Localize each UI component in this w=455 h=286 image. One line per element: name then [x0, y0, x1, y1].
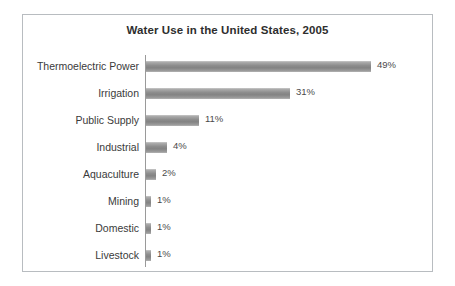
bar[interactable]: [146, 223, 151, 234]
bar[interactable]: [146, 169, 156, 180]
bar-row: Thermoelectric Power 49%: [23, 53, 434, 80]
bar-row: Industrial 4%: [23, 134, 434, 161]
bar-value-label: 1%: [157, 194, 171, 205]
category-label: Aquaculture: [23, 161, 139, 188]
category-label: Mining: [23, 188, 139, 215]
plot-area: Thermoelectric Power 49% Irrigation 31% …: [23, 53, 434, 273]
bar-value-label: 4%: [173, 140, 187, 151]
bar-value-label: 2%: [162, 167, 176, 178]
bar[interactable]: [146, 142, 167, 153]
bar[interactable]: [146, 196, 151, 207]
category-label: Thermoelectric Power: [23, 53, 139, 80]
bar[interactable]: [146, 115, 199, 126]
category-label: Industrial: [23, 134, 139, 161]
category-label: Livestock: [23, 242, 139, 269]
category-label: Public Supply: [23, 107, 139, 134]
bar-value-label: 31%: [296, 86, 315, 97]
bar[interactable]: [146, 88, 290, 99]
bar[interactable]: [146, 250, 151, 261]
chart-frame: Water Use in the United States, 2005 The…: [22, 14, 433, 272]
bar-value-label: 11%: [205, 113, 223, 124]
bar-value-label: 1%: [157, 248, 171, 259]
bar-row: Aquaculture 2%: [23, 161, 434, 188]
chart-title: Water Use in the United States, 2005: [23, 24, 432, 36]
bar-value-label: 1%: [157, 221, 171, 232]
category-label: Domestic: [23, 215, 139, 242]
bar-row: Mining 1%: [23, 188, 434, 215]
category-label: Irrigation: [23, 80, 139, 107]
bar-row: Public Supply 11%: [23, 107, 434, 134]
bar-row: Livestock 1%: [23, 242, 434, 269]
bar-value-label: 49%: [377, 59, 396, 70]
bar-row: Domestic 1%: [23, 215, 434, 242]
bar[interactable]: [146, 61, 371, 72]
bar-row: Irrigation 31%: [23, 80, 434, 107]
